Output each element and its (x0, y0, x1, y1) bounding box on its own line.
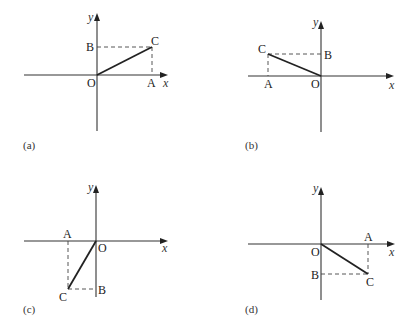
y-axis-label: y (87, 10, 94, 24)
y-axis-arrow-icon (94, 13, 100, 21)
panel-d: y x A O B C (d) (245, 181, 395, 316)
segment-OC (68, 241, 96, 289)
point-label-O: O (87, 76, 96, 90)
point-label-B: B (311, 268, 319, 282)
segment-OC (268, 54, 321, 76)
point-label-A: A (147, 76, 156, 90)
panel-caption: (c) (23, 303, 36, 316)
y-axis-label: y (312, 15, 319, 29)
x-axis-label: x (161, 241, 168, 255)
panel-a: y x B C O A (a) (23, 10, 169, 152)
y-axis-label: y (87, 180, 94, 194)
panel-b: y x B C O A (b) (245, 15, 395, 152)
point-label-O: O (98, 241, 107, 255)
panel-caption: (a) (23, 139, 36, 152)
x-axis-label: x (162, 76, 169, 90)
point-label-C: C (151, 34, 159, 48)
point-label-B: B (98, 283, 106, 297)
y-axis-arrow-icon (93, 185, 99, 193)
y-axis-arrow-icon (318, 21, 324, 29)
x-axis-label: x (388, 245, 395, 259)
panel-caption: (d) (245, 303, 258, 316)
point-label-B: B (324, 48, 332, 62)
figure-canvas: y x B C O A (a) y x B C O A (b) y x A O (0, 0, 417, 333)
point-label-C: C (258, 42, 266, 56)
point-label-C: C (59, 290, 67, 304)
segment-OC (321, 244, 368, 274)
point-label-A: A (264, 77, 273, 91)
point-label-A: A (63, 227, 72, 241)
point-label-C: C (366, 275, 374, 289)
point-label-B: B (86, 40, 94, 54)
point-label-A: A (364, 230, 373, 244)
point-label-O: O (311, 77, 320, 91)
y-axis-arrow-icon (318, 187, 324, 195)
panel-caption: (b) (245, 139, 258, 152)
x-axis-label: x (388, 78, 395, 92)
point-label-O: O (311, 245, 320, 259)
segment-OC (97, 47, 152, 75)
panel-c: y x A O C B (c) (23, 180, 168, 316)
y-axis-label: y (312, 181, 319, 195)
